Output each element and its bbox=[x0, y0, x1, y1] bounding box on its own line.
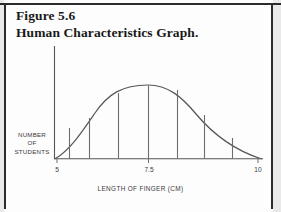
x-tick-label-left: 5 bbox=[49, 166, 65, 173]
x-axis-label: LENGTH OF FINGER (CM) bbox=[0, 185, 281, 192]
plot-svg bbox=[0, 0, 281, 212]
bell-curve-plot bbox=[0, 0, 281, 212]
y-axis-label-line-1: NUMBER bbox=[9, 131, 55, 139]
y-axis-label: NUMBER OF STUDENTS bbox=[9, 131, 55, 156]
distribution-curve bbox=[55, 85, 261, 159]
figure-page: Figure 5.6 Human Characteristics Graph. bbox=[0, 0, 281, 212]
y-axis-label-line-2: OF bbox=[9, 139, 55, 147]
y-axis-label-line-3: STUDENTS bbox=[9, 148, 55, 156]
x-tick-label-center: 7.5 bbox=[139, 166, 159, 173]
x-tick-label-right: 10 bbox=[249, 166, 267, 173]
